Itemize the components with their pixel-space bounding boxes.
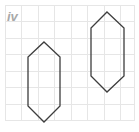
figure-canvas: iv [0,0,139,132]
figure-background [0,0,139,132]
figure-label: iv [7,9,19,24]
geometry-figure-svg: iv [0,0,139,132]
